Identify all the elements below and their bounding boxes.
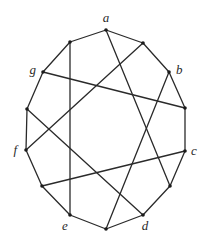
edge-c-v3 xyxy=(170,151,185,186)
edge-a-v1 xyxy=(106,30,143,43)
vertex-b xyxy=(167,70,171,74)
edge-g-v2 xyxy=(43,72,185,108)
vertex-v1 xyxy=(141,41,145,45)
edge-v6-d xyxy=(27,109,143,215)
vertex-label-g: g xyxy=(30,62,37,77)
edge-v7-a xyxy=(70,30,106,42)
graph-diagram: abcdefg xyxy=(0,0,207,246)
vertex-v5 xyxy=(40,184,44,188)
vertex-d xyxy=(141,213,145,217)
edge-v6-g xyxy=(27,72,43,109)
edge-b-v2 xyxy=(169,72,185,108)
vertex-v2 xyxy=(183,106,187,110)
vertex-label-a: a xyxy=(103,10,110,25)
edge-e-v5 xyxy=(42,186,70,215)
vertex-f xyxy=(24,148,28,152)
edge-g-v7 xyxy=(43,42,70,72)
edge-v5-c xyxy=(42,151,185,186)
vertex-g xyxy=(41,70,45,74)
edge-v4-e xyxy=(70,215,106,229)
vertex-label-b: b xyxy=(176,62,183,77)
vertex-label-c: c xyxy=(191,143,197,158)
vertex-label-e: e xyxy=(62,218,68,233)
edges-group xyxy=(26,30,185,229)
edge-f-v6 xyxy=(26,109,27,150)
vertex-v3 xyxy=(168,184,172,188)
vertex-label-d: d xyxy=(142,218,149,233)
vertex-a xyxy=(104,28,108,32)
vertex-v4 xyxy=(104,227,108,231)
edge-v1-f xyxy=(26,43,143,150)
vertex-v7 xyxy=(68,40,72,44)
vertex-c xyxy=(183,149,187,153)
edge-d-v4 xyxy=(106,215,143,229)
vertex-e xyxy=(68,213,72,217)
edge-v3-d xyxy=(143,186,170,215)
edge-v1-b xyxy=(143,43,169,72)
edge-v5-f xyxy=(26,150,42,186)
vertex-label-f: f xyxy=(13,142,19,157)
vertex-v6 xyxy=(25,107,29,111)
